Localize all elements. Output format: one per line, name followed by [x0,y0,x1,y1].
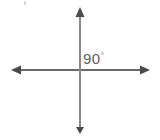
arrowhead-left-icon [11,66,21,75]
arrowhead-up-icon [76,7,85,17]
degree-symbol-icon: ° [101,51,104,60]
perpendicular-lines-svg [0,0,160,140]
arrowhead-down-icon [76,127,84,134]
arrowhead-right-icon [140,66,150,75]
geometry-figure-canvas: 90° [0,0,160,140]
angle-label: 90° [83,51,104,66]
scan-speck-artifact [24,1,26,5]
angle-value: 90 [83,50,101,67]
